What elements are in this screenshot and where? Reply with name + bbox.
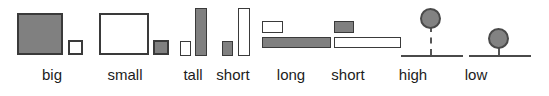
high-group-baseline — [401, 55, 463, 57]
label-short-length: short — [331, 66, 364, 84]
long-group-long-gray-bar — [262, 37, 331, 48]
label-high: high — [399, 66, 427, 84]
label-low: low — [465, 66, 488, 84]
short-length-group-long-white-bar — [334, 37, 401, 48]
tall-group-short-white-bar — [180, 41, 191, 56]
comparative-attributes-figure: big small tall short long short high low — [0, 0, 549, 96]
label-small: small — [107, 66, 142, 84]
short-height-group-tall-white-bar — [238, 8, 250, 56]
big-group-small-white-square — [68, 40, 83, 55]
high-group-gray-circle — [420, 8, 441, 29]
high-group-dashed-connector — [430, 26, 432, 55]
label-long: long — [277, 66, 305, 84]
small-group-large-white-square — [99, 13, 149, 55]
tall-group-tall-gray-bar — [195, 8, 207, 56]
short-length-group-short-gray-bar — [334, 21, 354, 33]
label-tall: tall — [183, 66, 202, 84]
label-short-height: short — [216, 66, 249, 84]
low-group-baseline — [469, 55, 531, 57]
long-group-short-white-bar — [262, 21, 283, 33]
big-group-large-gray-square — [17, 13, 63, 55]
low-group-gray-circle — [488, 28, 509, 49]
short-height-group-short-gray-bar — [222, 41, 233, 56]
label-big: big — [42, 66, 62, 84]
small-group-small-gray-square — [153, 40, 169, 55]
